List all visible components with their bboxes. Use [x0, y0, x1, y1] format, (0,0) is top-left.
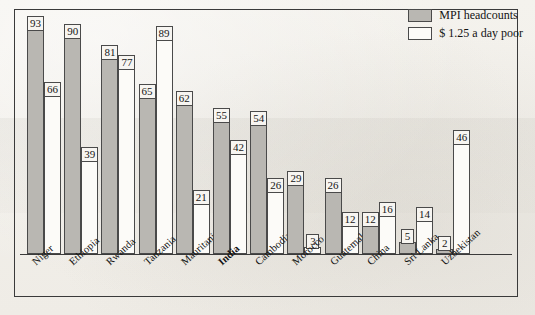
- bar-rwanda-mpi: [101, 58, 118, 254]
- legend-swatch-mpi: [408, 9, 432, 22]
- plot-area: 9366Niger9039Ethiopia8177Rwanda6589Tanza…: [14, 9, 518, 297]
- bar-value-label: 26: [267, 178, 284, 193]
- bar-tanzania-mpi: [139, 97, 156, 254]
- bar-value-label: 89: [156, 26, 173, 41]
- chart-legend: MPI headcounts $ 1.25 a day poor: [408, 8, 523, 41]
- bar-ethiopia-mpi: [64, 37, 81, 254]
- legend-label-mpi: MPI headcounts: [439, 8, 517, 23]
- legend-item-poor: $ 1.25 a day poor: [408, 26, 523, 41]
- bar-value-label: 5: [401, 229, 414, 244]
- bar-rwanda-poor: [118, 68, 135, 254]
- bar-value-label: 14: [416, 207, 433, 222]
- bar-value-label: 26: [325, 178, 342, 193]
- bar-value-label: 21: [193, 190, 210, 205]
- bar-value-label: 16: [379, 202, 396, 217]
- bar-value-label: 46: [453, 130, 470, 145]
- bar-value-label: 66: [44, 82, 61, 97]
- bar-niger-mpi: [27, 29, 44, 254]
- bar-value-label: 81: [101, 45, 118, 60]
- bar-value-label: 29: [287, 171, 304, 186]
- bar-value-label: 42: [230, 140, 247, 155]
- bar-value-label: 65: [139, 84, 156, 99]
- bar-guatemala-mpi: [325, 191, 342, 254]
- legend-label-poor: $ 1.25 a day poor: [439, 26, 523, 41]
- bar-morocco-mpi: [287, 184, 304, 254]
- legend-swatch-poor: [408, 27, 432, 40]
- bar-india-mpi: [213, 121, 230, 254]
- legend-item-mpi: MPI headcounts: [408, 8, 523, 23]
- bar-value-label: 62: [176, 91, 193, 106]
- chart-root: 9366Niger9039Ethiopia8177Rwanda6589Tanza…: [0, 0, 535, 315]
- bar-niger-poor: [44, 95, 61, 254]
- bar-value-label: 39: [81, 147, 98, 162]
- bar-tanzania-poor: [156, 39, 173, 254]
- bar-value-label: 55: [213, 108, 230, 123]
- bar-cambodia-mpi: [250, 124, 267, 254]
- bar-value-label: 77: [118, 55, 135, 70]
- bar-value-label: 90: [64, 24, 81, 39]
- bar-mauritania-mpi: [176, 104, 193, 254]
- bar-india-poor: [230, 153, 247, 254]
- bar-value-label: 54: [250, 111, 267, 126]
- bar-value-label: 12: [362, 212, 379, 227]
- bar-value-label: 93: [27, 16, 44, 31]
- bar-value-label: 12: [342, 212, 359, 227]
